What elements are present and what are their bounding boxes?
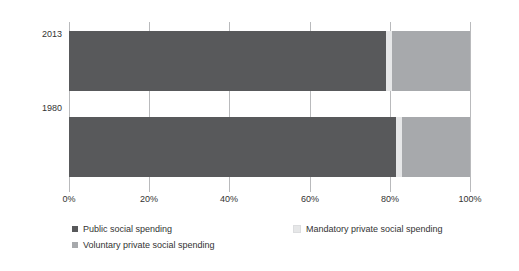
x-axis-label-20pct: 20%	[119, 194, 179, 204]
y-axis-label-2013: 2013	[22, 29, 62, 39]
legend-label-public: Public social spending	[83, 224, 172, 234]
y-axis-label-1980: 1980	[22, 103, 62, 113]
chart-legend: Public social spending Mandatory private…	[0, 221, 519, 261]
legend-label-mandatory: Mandatory private social spending	[306, 224, 443, 234]
x-tick-40pct	[229, 188, 230, 192]
x-tick-0pct	[69, 188, 70, 192]
x-tick-60pct	[310, 188, 311, 192]
bar-segment-2013-voluntary-private-social-spending[interactable]	[392, 31, 470, 91]
x-axis-label-60pct: 60%	[280, 194, 340, 204]
bar-segment-1980-voluntary-private-social-spending[interactable]	[402, 117, 470, 177]
legend-item-mandatory[interactable]: Mandatory private social spending	[293, 224, 443, 234]
x-axis-label-100pct: 100%	[440, 194, 500, 204]
legend-item-public[interactable]: Public social spending	[72, 224, 172, 234]
plot-area	[69, 22, 470, 188]
bar-group-2013	[69, 31, 470, 91]
stacked-bar-chart: 2013 1980 0%20%40%60%80%100% Public soci…	[0, 0, 519, 271]
legend-swatch-public-icon	[72, 226, 78, 232]
x-axis-label-0pct: 0%	[39, 194, 99, 204]
legend-label-voluntary: Voluntary private social spending	[83, 240, 215, 250]
bar-segment-2013-public-social-spending[interactable]	[69, 31, 386, 91]
x-tick-100pct	[470, 188, 471, 192]
legend-swatch-voluntary-icon	[72, 242, 78, 248]
legend-swatch-mandatory-icon	[293, 225, 301, 233]
x-tick-20pct	[149, 188, 150, 192]
x-axis-label-40pct: 40%	[199, 194, 259, 204]
bar-group-1980	[69, 117, 470, 177]
bar-segment-1980-public-social-spending[interactable]	[69, 117, 396, 177]
legend-item-voluntary[interactable]: Voluntary private social spending	[72, 240, 215, 250]
x-axis-label-80pct: 80%	[360, 194, 420, 204]
x-tick-80pct	[390, 188, 391, 192]
gridline-100pct	[470, 22, 471, 188]
